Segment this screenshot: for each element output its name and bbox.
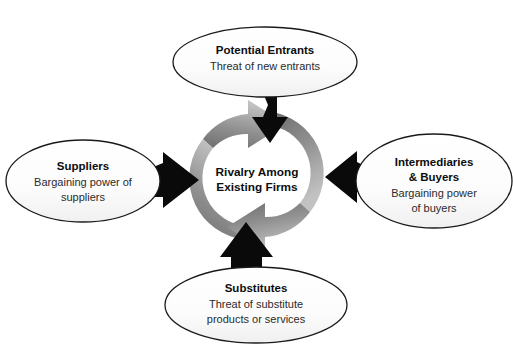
diagram-canvas: Rivalry Among Existing Firms Potential E… — [0, 0, 513, 351]
suppliers-title: Suppliers — [57, 160, 109, 172]
force-node-intermediaries-buyers[interactable]: Intermediaries & Buyers Bargaining power… — [356, 134, 512, 228]
suppliers-subtitle-line2: suppliers — [61, 191, 106, 203]
force-node-potential-entrants[interactable]: Potential Entrants Threat of new entrant… — [173, 27, 357, 97]
intermediaries-buyers-subtitle-line1: Bargaining power — [391, 187, 477, 199]
intermediaries-buyers-subtitle-line2: of buyers — [411, 202, 457, 214]
center-label-line2: Existing Firms — [216, 180, 298, 194]
potential-entrants-title: Potential Entrants — [216, 44, 314, 56]
substitutes-subtitle-line2: products or services — [207, 313, 306, 325]
potential-entrants-subtitle-line1: Threat of new entrants — [210, 60, 321, 72]
substitutes-subtitle-line1: Threat of substitute — [209, 298, 303, 310]
force-node-suppliers[interactable]: Suppliers Bargaining power of suppliers — [6, 140, 160, 222]
suppliers-subtitle-line1: Bargaining power of — [34, 176, 133, 188]
force-node-substitutes[interactable]: Substitutes Threat of substitute product… — [165, 267, 347, 343]
substitutes-title: Substitutes — [225, 282, 288, 294]
center-label: Rivalry Among Existing Firms — [216, 165, 299, 194]
five-forces-diagram: Rivalry Among Existing Firms Potential E… — [0, 0, 513, 351]
center-label-line1: Rivalry Among — [216, 165, 299, 179]
intermediaries-buyers-title-line1: Intermediaries — [395, 156, 474, 168]
intermediaries-buyers-title-line2: & Buyers — [409, 171, 460, 183]
